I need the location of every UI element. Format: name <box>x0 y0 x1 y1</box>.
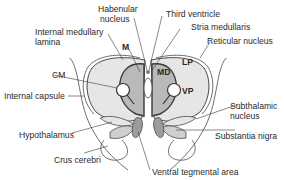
cm-circle <box>117 84 130 97</box>
label-substantia-nigra: Substantia nigra <box>215 131 277 141</box>
vp-circle <box>168 84 181 97</box>
label-hypothalamus: Hypothalamus <box>19 130 74 140</box>
label-habenular-nucleus-1: Habenular <box>98 4 138 14</box>
label-ventral-tegmental-area: Ventral tegmental area <box>152 167 238 177</box>
crus-cerebri-right <box>168 140 195 160</box>
label-vp: VP <box>182 86 193 96</box>
label-internal-medullary-lamina-2: lamina <box>35 37 60 47</box>
habenular-nucleus <box>146 70 150 74</box>
label-crus-cerebri: Crus cerebri <box>54 155 101 165</box>
substantia-nigra-right <box>162 126 186 139</box>
third-ventricle <box>144 78 152 98</box>
label-subthalamic-nucleus-1: Subthalamic <box>230 101 277 111</box>
label-reticular-nucleus: Reticular nucleus <box>207 36 273 46</box>
label-cm: CM <box>52 70 65 80</box>
label-habenular-nucleus-2: nucleus <box>100 14 130 24</box>
label-stria-medullaris: Stria medullaris <box>191 22 250 32</box>
label-m: M <box>122 42 129 52</box>
label-third-ventricle: Third ventricle <box>166 9 220 19</box>
label-internal-capsule: Internal capsule <box>4 91 65 101</box>
label-lp: LP <box>182 57 193 67</box>
label-subthalamic-nucleus-2: nucleus <box>230 111 260 121</box>
label-internal-medullary-lamina-1: Internal medullary <box>35 27 103 37</box>
crus-cerebri-left <box>101 140 128 160</box>
substantia-nigra-left <box>110 126 134 139</box>
label-md: MD <box>157 67 170 77</box>
